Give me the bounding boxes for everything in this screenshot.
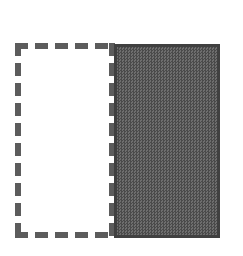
dashed-edge-left	[15, 43, 21, 238]
filled-gray-rectangle	[114, 44, 220, 238]
dashed-edge-top	[15, 43, 115, 49]
dashed-edge-bottom	[15, 232, 115, 238]
figure-canvas	[0, 0, 243, 256]
dashed-outline-rectangle	[15, 43, 115, 238]
